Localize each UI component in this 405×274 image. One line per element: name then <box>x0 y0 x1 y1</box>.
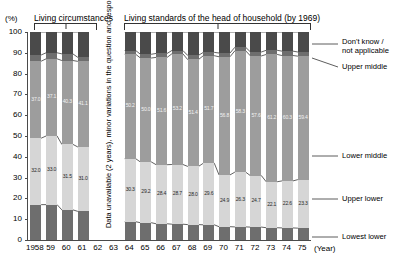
bar-value-label: 24.7 <box>251 199 260 205</box>
bar-segment <box>250 32 261 52</box>
bar-segment <box>282 51 293 55</box>
y-axis-tick-label: 20 <box>13 194 22 202</box>
y-axis-tick-label: 90 <box>13 49 22 57</box>
bar-segment: 37.1 <box>46 59 57 136</box>
bar-segment: 57.6 <box>250 56 261 176</box>
bar-value-label: 29.2 <box>141 190 150 196</box>
bar-segment: 56.8 <box>219 57 230 175</box>
bar-stack: 24.956.8 <box>219 32 230 240</box>
bar-segment <box>203 225 214 240</box>
bar-segment: 31.5 <box>62 144 73 210</box>
bar-segment <box>62 32 73 54</box>
plot-area: 100908070605040302010032.037.033.037.131… <box>27 32 311 241</box>
y-axis-tick-mark <box>25 136 28 137</box>
y-axis-tick-label: 40 <box>13 153 22 161</box>
bar-segment: 29.2 <box>140 162 151 223</box>
bar-segment <box>188 32 199 55</box>
bar-segment <box>298 32 309 52</box>
bar-stack: 31.041.1 <box>78 32 89 240</box>
bar-value-label: 51.4 <box>189 110 198 116</box>
bar-value-label: 29.6 <box>204 191 213 197</box>
brace-living-standards <box>124 23 311 30</box>
y-axis-tick-mark <box>25 178 28 179</box>
bar-segment <box>46 205 57 240</box>
bar-segment <box>266 228 277 240</box>
y-axis-tick-label: 30 <box>13 174 22 182</box>
chart-root: (%) Living circumstances Living standard… <box>0 0 405 274</box>
bar-segment <box>46 53 57 59</box>
bar-stack: 22.660.3 <box>282 32 293 240</box>
bar-segment: 32.0 <box>30 138 41 205</box>
bar-segment <box>140 32 151 54</box>
bar-segment: 41.1 <box>78 61 89 146</box>
bar-segment: 24.7 <box>250 176 261 227</box>
bar-stack: 26.358.3 <box>235 32 246 240</box>
bar-stack: 29.651.7 <box>203 32 214 240</box>
group-header-living-circumstances: Living circumstances <box>34 13 113 23</box>
bar-value-label: 33.0 <box>47 168 56 174</box>
bar-segment: 31.0 <box>78 147 89 211</box>
bar-segment <box>156 32 167 53</box>
bar-segment <box>188 55 199 59</box>
group-header-living-standards: Living standards of the head of househol… <box>124 13 320 23</box>
bar-value-label: 28.7 <box>173 192 182 198</box>
gap-annotation: Data unavailable (2 years), minor variat… <box>104 58 132 228</box>
bar-value-label: 57.6 <box>251 113 260 119</box>
bar-segment <box>125 32 136 51</box>
legend-item-upper-lower: Upper lower <box>342 194 383 203</box>
bar-segment <box>140 54 151 58</box>
bar-segment <box>62 54 73 61</box>
y-axis-tick-mark <box>25 115 28 116</box>
bar-segment <box>172 32 183 51</box>
bar-value-label: 40.3 <box>63 100 72 106</box>
y-axis-tick-label: 10 <box>13 215 22 223</box>
bar-segment: 53.2 <box>172 54 183 165</box>
bar-segment <box>266 32 277 50</box>
legend-item-upper-middle: Upper middle <box>342 62 387 71</box>
bar-segment: 28.0 <box>188 166 199 224</box>
bar-segment <box>298 228 309 240</box>
y-axis-tick-mark <box>25 74 28 75</box>
bar-segment: 59.4 <box>298 56 309 180</box>
bar-segment <box>78 32 89 57</box>
bar-segment: 50.0 <box>140 58 151 162</box>
bar-value-label: 24.9 <box>220 198 229 204</box>
y-axis-tick-mark <box>25 157 28 158</box>
y-axis-unit-label: (%) <box>5 14 17 23</box>
bar-segment: 60.3 <box>282 56 293 181</box>
y-axis-tick-label: 0 <box>18 236 22 244</box>
bar-segment: 37.0 <box>30 61 41 138</box>
bar-segment <box>282 228 293 240</box>
bar-value-label: 37.0 <box>31 97 40 103</box>
bar-segment <box>172 51 183 54</box>
legend-item-dont-know: Don't know / not applicable <box>342 37 389 55</box>
bar-segment <box>235 47 246 51</box>
bar-segment <box>235 227 246 240</box>
y-axis-tick-label: 50 <box>13 132 22 140</box>
bar-segment <box>30 55 41 61</box>
bar-stack: 24.757.6 <box>250 32 261 240</box>
bar-segment <box>266 50 277 54</box>
brace-living-circumstances <box>34 23 97 30</box>
bar-stack: 32.037.0 <box>30 32 41 240</box>
bar-segment <box>219 32 230 53</box>
bar-value-label: 31.0 <box>78 176 87 182</box>
bar-segment: 40.3 <box>62 61 73 145</box>
bar-stack: 33.037.1 <box>46 32 57 240</box>
bar-value-label: 26.3 <box>236 197 245 203</box>
legend-label-dont-know-line2: not applicable <box>342 46 389 55</box>
bar-segment <box>30 32 41 55</box>
y-axis-tick-mark <box>25 219 28 220</box>
bar-segment <box>188 225 199 240</box>
bar-value-label: 37.1 <box>47 95 56 101</box>
bar-segment <box>203 32 214 52</box>
y-axis-tick-mark <box>25 198 28 199</box>
bar-segment <box>298 52 309 56</box>
bar-segment <box>140 223 151 240</box>
bar-value-label: 22.1 <box>267 202 276 208</box>
bar-segment: 29.6 <box>203 163 214 225</box>
bar-value-label: 41.1 <box>78 101 87 107</box>
bar-segment <box>30 205 41 240</box>
bar-segment: 22.1 <box>266 182 277 228</box>
y-axis-tick-mark <box>25 32 28 33</box>
